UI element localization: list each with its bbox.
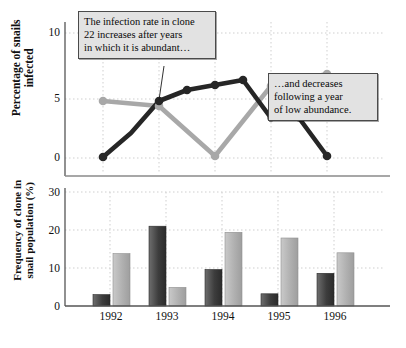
bar-1992-dark xyxy=(93,295,110,306)
bar-1992-light xyxy=(113,254,130,306)
figure-root: Percentage of snails infected 10 5 0 xyxy=(0,0,406,348)
bar-1993-dark xyxy=(149,226,166,306)
xtick-1995: 1995 xyxy=(257,310,301,322)
bar-1996-dark xyxy=(317,273,334,306)
bar-1994-dark xyxy=(205,270,222,307)
bar-1996-light xyxy=(337,253,354,306)
xtick-1994: 1994 xyxy=(201,310,245,322)
xtick-1992: 1992 xyxy=(89,310,133,322)
xtick-1993: 1993 xyxy=(145,310,189,322)
bar-1995-dark xyxy=(261,294,278,306)
bar-1995-light xyxy=(281,238,298,306)
bar-1994-light xyxy=(225,232,242,306)
bottom-bar-chart-plot xyxy=(0,0,406,348)
xtick-1996: 1996 xyxy=(313,310,357,322)
bar-1993-light xyxy=(169,287,186,306)
